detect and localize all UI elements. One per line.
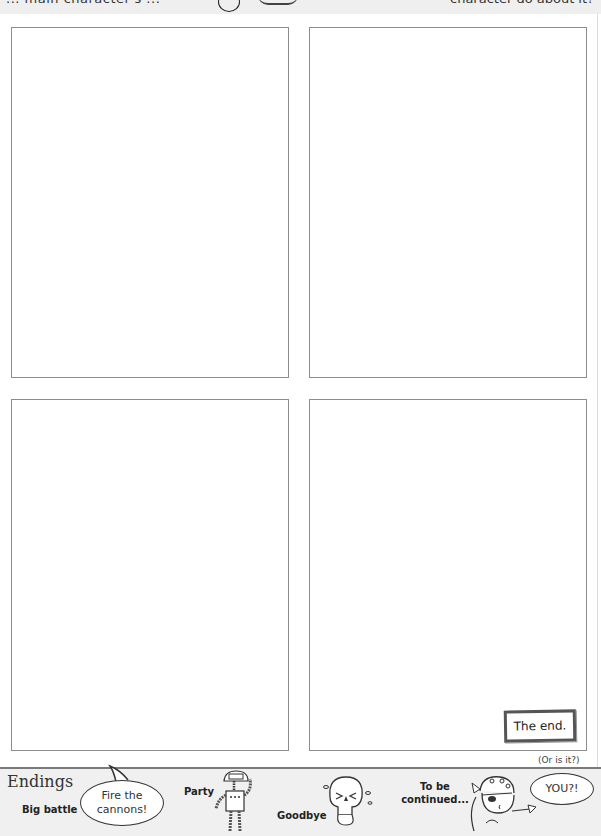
caption-box: The end. bbox=[504, 709, 577, 742]
ending-label-to-be-continued: To be continued... bbox=[400, 780, 470, 806]
comic-panel-1[interactable] bbox=[11, 27, 289, 378]
endings-strip: Endings Big battle Fire the cannons! Par… bbox=[0, 767, 601, 836]
comic-panel-4[interactable]: The end. bbox=[309, 399, 587, 751]
pirate-girl-icon bbox=[462, 771, 542, 836]
endings-title: Endings bbox=[7, 772, 73, 791]
doodle-icon bbox=[218, 0, 240, 12]
page-edge bbox=[597, 14, 598, 767]
comic-panel-3[interactable] bbox=[11, 399, 289, 751]
header-right-text: character do about it? bbox=[450, 0, 594, 6]
ending-label-goodbye: Goodbye bbox=[277, 809, 327, 822]
robot-icon bbox=[212, 769, 262, 836]
doodle-icon bbox=[258, 0, 298, 5]
comic-panel-2[interactable] bbox=[309, 27, 587, 378]
header-strip: ... main character's ... character do ab… bbox=[0, 0, 601, 14]
speech-bubble-fire: Fire the cannons! bbox=[80, 780, 164, 826]
ending-label-party: Party bbox=[184, 785, 214, 798]
ending-label-big-battle: Big battle bbox=[22, 803, 77, 816]
footnote: (Or is it?) bbox=[538, 755, 580, 765]
header-left-text: ... main character's ... bbox=[6, 0, 160, 6]
speech-bubble-you: YOU?! bbox=[530, 773, 594, 805]
skull-icon bbox=[322, 773, 378, 835]
